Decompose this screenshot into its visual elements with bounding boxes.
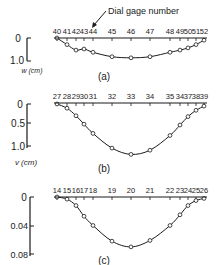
data-point-marker bbox=[129, 245, 133, 249]
panel-c-ytick-0: 0 bbox=[21, 192, 27, 203]
x-tick-label: 20 bbox=[127, 186, 135, 195]
panel-c: 14151617181920212223242526 0 0.04 0.08 (… bbox=[10, 186, 208, 265]
panel-a: 40414243444546474849505152 0 1.0 w (cm) … bbox=[10, 27, 208, 82]
data-point-marker bbox=[194, 108, 198, 112]
x-tick-label: 46 bbox=[127, 27, 135, 36]
panel-b-x-ticks: 27282930313233343534373839 bbox=[53, 92, 208, 106]
annotation-arrow bbox=[94, 11, 106, 25]
panel-a-label: (a) bbox=[98, 71, 110, 82]
data-point-marker bbox=[148, 148, 152, 152]
data-point-marker bbox=[202, 104, 206, 108]
panel-b-label: (b) bbox=[98, 163, 110, 174]
x-tick-label: 48 bbox=[166, 27, 174, 36]
x-tick-label: 34 bbox=[146, 92, 154, 101]
data-point-marker bbox=[186, 115, 190, 119]
data-point-marker bbox=[178, 123, 182, 127]
fitted-curve bbox=[57, 38, 204, 58]
x-tick-label: 41 bbox=[63, 27, 71, 36]
x-tick-label: 22 bbox=[166, 186, 174, 195]
x-tick-label: 21 bbox=[146, 186, 154, 195]
data-point-marker bbox=[82, 214, 86, 218]
panel-c-x-ticks: 14151617181920212223242526 bbox=[53, 186, 208, 200]
data-point-marker bbox=[194, 43, 198, 47]
x-tick-label: 33 bbox=[127, 92, 135, 101]
panel-c-ytick-2: 0.08 bbox=[10, 250, 28, 260]
data-point-marker bbox=[74, 114, 78, 118]
data-point-marker bbox=[110, 239, 114, 243]
x-tick-label: 31 bbox=[89, 92, 97, 101]
x-tick-label: 19 bbox=[108, 186, 116, 195]
data-point-marker bbox=[110, 55, 114, 59]
data-point-marker bbox=[110, 146, 114, 150]
x-tick-label: 17 bbox=[80, 186, 88, 195]
panel-b: 27282930313233343534373839 0 0.5 1.0 v (… bbox=[11, 92, 208, 174]
panel-a-ytick-0: 0 bbox=[15, 33, 21, 44]
panel-a-ylabel: w (cm) bbox=[22, 67, 43, 75]
data-point-marker bbox=[202, 38, 206, 42]
panel-c-curve bbox=[55, 195, 206, 249]
data-point-marker bbox=[74, 48, 78, 52]
data-point-marker bbox=[194, 199, 198, 203]
panel-a-curve bbox=[55, 36, 206, 60]
data-point-marker bbox=[148, 55, 152, 59]
x-tick-label: 44 bbox=[89, 27, 97, 36]
data-point-marker bbox=[168, 134, 172, 138]
data-point-marker bbox=[91, 50, 95, 54]
data-point-marker bbox=[74, 204, 78, 208]
data-point-marker bbox=[91, 132, 95, 136]
x-tick-label: 14 bbox=[53, 186, 61, 195]
panel-b-ytick-2: 1.0 bbox=[11, 141, 25, 152]
x-tick-label: 26 bbox=[200, 186, 208, 195]
data-point-marker bbox=[168, 50, 172, 54]
data-point-marker bbox=[129, 153, 133, 157]
x-tick-label: 18 bbox=[89, 186, 97, 195]
x-tick-label: 39 bbox=[200, 92, 208, 101]
data-point-marker bbox=[65, 197, 69, 201]
x-tick-label: 32 bbox=[108, 92, 116, 101]
x-tick-label: 52 bbox=[200, 27, 208, 36]
panel-a-ytick-1: 1.0 bbox=[10, 55, 24, 66]
panel-b-ylabel: v (cm) bbox=[15, 158, 38, 167]
data-point-marker bbox=[91, 224, 95, 228]
panel-c-label: (c) bbox=[98, 255, 110, 265]
data-point-marker bbox=[65, 43, 69, 47]
x-tick-label: 27 bbox=[53, 92, 61, 101]
x-tick-label: 35 bbox=[166, 92, 174, 101]
data-point-marker bbox=[82, 122, 86, 126]
data-point-marker bbox=[129, 56, 133, 60]
x-tick-label: 40 bbox=[53, 27, 61, 36]
data-point-marker bbox=[178, 48, 182, 52]
data-point-marker bbox=[168, 224, 172, 228]
fitted-curve bbox=[57, 104, 204, 154]
panel-b-ytick-1: 0.5 bbox=[11, 118, 25, 129]
data-point-marker bbox=[178, 213, 182, 217]
dial-gage-annotation: Dial gage number bbox=[108, 6, 179, 16]
x-tick-label: 45 bbox=[108, 27, 116, 36]
x-tick-label: 47 bbox=[146, 27, 154, 36]
data-point-marker bbox=[82, 47, 86, 51]
data-point-marker bbox=[186, 46, 190, 50]
data-point-marker bbox=[186, 204, 190, 208]
x-tick-label: 15 bbox=[63, 186, 71, 195]
fitted-curve bbox=[57, 197, 204, 247]
x-tick-label: 30 bbox=[80, 92, 88, 101]
data-point-marker bbox=[65, 106, 69, 110]
data-point-marker bbox=[148, 239, 152, 243]
x-tick-label: 28 bbox=[63, 92, 71, 101]
panel-c-ytick-1: 0.04 bbox=[10, 221, 28, 231]
panel-a-x-ticks: 40414243444546474849505152 bbox=[53, 27, 208, 41]
panel-b-curve bbox=[55, 102, 206, 156]
x-tick-label: 43 bbox=[80, 27, 88, 36]
deflection-figure: Dial gage number 40414243444546474849505… bbox=[0, 0, 219, 265]
panel-b-ytick-0: 0 bbox=[17, 99, 23, 110]
